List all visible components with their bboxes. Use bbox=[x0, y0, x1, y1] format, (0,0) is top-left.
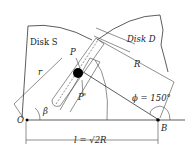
label-p-prime: P' bbox=[77, 92, 86, 102]
label-r-small: r bbox=[38, 67, 43, 77]
label-l: l = √2R bbox=[74, 135, 107, 145]
label-b: B bbox=[160, 123, 167, 133]
point-b bbox=[156, 118, 160, 122]
label-beta: β bbox=[42, 106, 48, 116]
dimension-r bbox=[14, 58, 62, 104]
disk-s-arc bbox=[95, 60, 108, 120]
label-phi: ϕ = 150° bbox=[132, 93, 171, 103]
point-o bbox=[26, 119, 29, 122]
mechanism-diagram: Disk S Disk D P P' r R β ϕ = 150° O B l … bbox=[0, 0, 191, 160]
disk-d-arm bbox=[60, 58, 100, 112]
beta-arc bbox=[35, 108, 40, 120]
label-o: O bbox=[17, 115, 24, 125]
force-p-arrow bbox=[76, 58, 80, 68]
label-p: P bbox=[69, 47, 76, 57]
label-disk-s: Disk S bbox=[30, 37, 58, 47]
label-r-large: R bbox=[133, 59, 141, 69]
pin bbox=[73, 68, 83, 78]
label-disk-d: Disk D bbox=[126, 34, 156, 44]
